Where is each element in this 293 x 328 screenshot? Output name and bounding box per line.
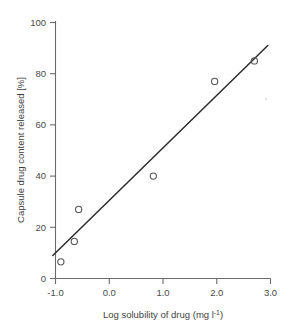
y-tick-label-60: 60 — [35, 119, 46, 130]
data-point-4 — [212, 78, 218, 84]
scatter-plot-figure: 0 20 40 60 80 100 -1.0 0.0 1.0 2.0 3.0 — [0, 0, 293, 328]
data-point-0 — [58, 259, 64, 265]
x-axis-title-tail: ) — [220, 309, 223, 320]
x-tick-label-neg1: -1.0 — [47, 287, 63, 298]
x-tick-label-0: 0.0 — [103, 287, 116, 298]
regression-line — [53, 46, 268, 256]
y-axis-title: Capsule drug content released [%] — [15, 77, 26, 223]
x-tick-label-3: 3.0 — [264, 287, 277, 298]
y-tick-label-20: 20 — [35, 222, 46, 233]
y-tick-label-80: 80 — [35, 68, 46, 79]
data-point-markers — [58, 58, 258, 265]
x-tick-label-2: 2.0 — [210, 287, 223, 298]
x-axis-title-main: Log solubility of drug (mg l — [103, 309, 214, 320]
data-point-3 — [150, 173, 156, 179]
plot-canvas: 0 20 40 60 80 100 -1.0 0.0 1.0 2.0 3.0 — [0, 0, 293, 328]
x-tick-label-1: 1.0 — [156, 287, 169, 298]
y-tick-label-40: 40 — [35, 170, 46, 181]
y-axis-tick-labels: 0 20 40 60 80 100 — [30, 17, 46, 284]
y-tick-label-100: 100 — [30, 17, 46, 28]
scan-speck — [265, 98, 267, 100]
data-point-2 — [76, 206, 82, 212]
x-axis-tick-labels: -1.0 0.0 1.0 2.0 3.0 — [47, 287, 277, 298]
x-axis-title: Log solubility of drug (mg l-1) — [103, 309, 223, 321]
y-axis-ticks — [50, 23, 56, 279]
data-point-1 — [71, 238, 77, 244]
x-axis-ticks — [56, 279, 271, 285]
y-tick-label-0: 0 — [41, 273, 46, 284]
